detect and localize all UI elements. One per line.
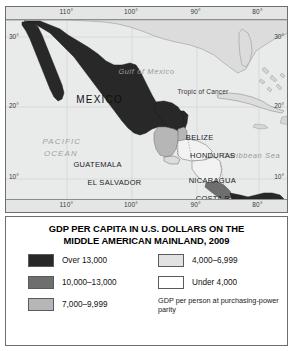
lat-tick-10-left: 10° <box>9 173 19 180</box>
legend-item-under-4000: Under 4,000 <box>158 273 238 291</box>
lon-tick-110-bottom: 110° <box>60 201 74 208</box>
lat-tick-30-right: 30° <box>274 33 284 40</box>
lon-tick-80: 80° <box>252 8 262 15</box>
lat-tick-20-right: 20° <box>274 102 284 109</box>
legend-title-line2: MIDDLE AMERICAN MAINLAND, 2009 <box>12 235 281 247</box>
lon-tick-110: 110° <box>60 8 74 15</box>
map-panel: 110° 100° 90° 80° 110° 100° 90° 80° 30° … <box>5 6 288 213</box>
legend-swatch-under-4000 <box>158 276 184 289</box>
legend-swatch-4000-6999 <box>158 254 184 267</box>
legend-column-right: 4,000–6,999 Under 4,000 <box>158 251 238 295</box>
lon-tick-80-bottom: 80° <box>252 201 262 208</box>
lon-tick-90: 90° <box>190 8 200 15</box>
legend-swatch-10000-13000 <box>28 276 54 289</box>
legend-swatch-over-13000 <box>28 254 54 267</box>
legend-panel: GDP PER CAPITA IN U.S. DOLLARS ON THE MI… <box>5 216 288 346</box>
lat-tick-30-left: 30° <box>9 33 19 40</box>
lon-tick-100: 100° <box>124 8 138 15</box>
legend-label-under-4000: Under 4,000 <box>192 278 237 287</box>
legend-item-10000-13000: 10,000–13,000 <box>28 273 117 291</box>
lat-tick-10-right: 10° <box>274 173 284 180</box>
lon-tick-100-bottom: 100° <box>124 201 138 208</box>
legend-item-7000-9999: 7,000–9,999 <box>28 295 117 313</box>
legend-label-7000-9999: 7,000–9,999 <box>62 300 108 309</box>
longitude-axis-bottom: 110° 100° 90° 80° <box>6 199 287 212</box>
legend-label-4000-6999: 4,000–6,999 <box>192 256 238 265</box>
longitude-axis-top: 110° 100° 90° 80° <box>6 7 287 20</box>
lat-tick-20-left: 20° <box>9 102 19 109</box>
legend-item-over-13000: Over 13,000 <box>28 251 117 269</box>
legend-title: GDP PER CAPITA IN U.S. DOLLARS ON THE MI… <box>6 217 287 246</box>
map-figure: 110° 100° 90° 80° 110° 100° 90° 80° 30° … <box>0 0 293 351</box>
legend-title-line1: GDP PER CAPITA IN U.S. DOLLARS ON THE <box>12 223 281 235</box>
legend-label-10000-13000: 10,000–13,000 <box>62 278 117 287</box>
lon-tick-90-bottom: 90° <box>190 201 200 208</box>
legend-swatch-7000-9999 <box>28 298 54 311</box>
legend-column-left: Over 13,000 10,000–13,000 7,000–9,999 <box>28 251 117 317</box>
legend-note: GDP per person at purchasing-power parit… <box>158 296 286 314</box>
legend-label-over-13000: Over 13,000 <box>62 256 107 265</box>
legend-item-4000-6999: 4,000–6,999 <box>158 251 238 269</box>
map-canvas <box>6 7 288 213</box>
